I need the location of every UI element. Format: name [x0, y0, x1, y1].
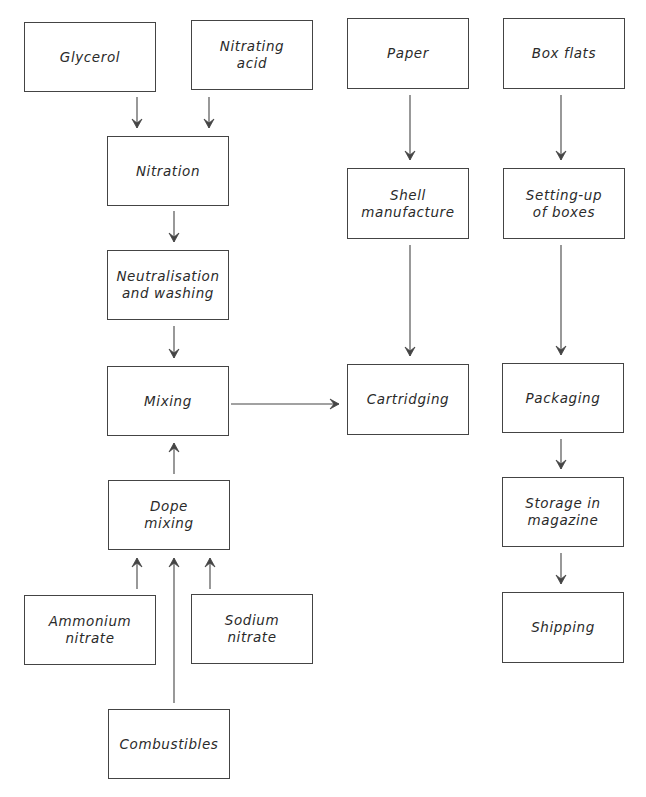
edge-ammonium_nitrate-to-dope_mixing: [132, 558, 142, 589]
node-sodium-nitrate: Sodium nitrate: [191, 594, 313, 664]
node-label: Cartridging: [367, 391, 449, 408]
edge-setting_up_boxes-to-packaging: [556, 245, 566, 355]
edge-dope_mixing-to-mixing: [169, 443, 179, 474]
node-box-flats: Box flats: [503, 18, 625, 89]
edge-paper-to-shell_manufacture: [405, 95, 415, 160]
edge-glycerol-to-nitration: [132, 97, 142, 128]
node-label: Packaging: [526, 390, 601, 407]
node-label: Glycerol: [60, 49, 120, 66]
edge-packaging-to-storage_magazine: [556, 439, 566, 469]
node-neutralisation: Neutralisation and washing: [107, 250, 229, 320]
edge-combustibles-to-dope_mixing: [169, 558, 179, 703]
node-combustibles: Combustibles: [108, 709, 230, 779]
edge-neutralisation-to-mixing: [169, 326, 179, 358]
node-label: Mixing: [144, 393, 192, 410]
node-label: Nitrating acid: [220, 38, 285, 72]
node-nitration: Nitration: [107, 136, 229, 206]
node-label: Sodium nitrate: [225, 612, 279, 646]
node-label: Box flats: [532, 45, 596, 62]
node-label: Paper: [387, 45, 429, 62]
node-storage-magazine: Storage in magazine: [502, 477, 624, 547]
node-ammonium-nitrate: Ammonium nitrate: [24, 595, 156, 665]
node-label: Ammonium nitrate: [49, 613, 132, 647]
node-label: Combustibles: [120, 736, 219, 753]
node-label: Nitration: [136, 163, 200, 180]
edge-mixing-to-cartridging: [231, 399, 339, 409]
node-label: Dope mixing: [144, 498, 193, 532]
edge-sodium_nitrate-to-dope_mixing: [205, 558, 215, 589]
node-mixing: Mixing: [107, 366, 229, 436]
node-shipping: Shipping: [502, 592, 624, 663]
node-shell-manufacture: Shell manufacture: [347, 168, 469, 239]
flow-diagram: GlycerolNitrating acidNitrationNeutralis…: [0, 0, 646, 797]
node-label: Shipping: [531, 619, 595, 636]
node-packaging: Packaging: [502, 363, 624, 433]
edge-storage_magazine-to-shipping: [556, 553, 566, 584]
node-label: Storage in magazine: [525, 495, 600, 529]
edge-shell_manufacture-to-cartridging: [405, 245, 415, 356]
edge-nitration-to-neutralisation: [169, 211, 179, 242]
node-paper: Paper: [347, 18, 469, 89]
node-label: Neutralisation and washing: [116, 268, 219, 302]
edge-box_flats-to-setting_up_boxes: [556, 95, 566, 160]
node-label: Shell manufacture: [361, 187, 454, 221]
node-nitrating-acid: Nitrating acid: [191, 20, 313, 90]
node-label: Setting-up of boxes: [526, 187, 602, 221]
node-dope-mixing: Dope mixing: [108, 480, 230, 550]
node-setting-up-boxes: Setting-up of boxes: [503, 168, 625, 239]
edge-nitrating_acid-to-nitration: [204, 97, 214, 128]
node-glycerol: Glycerol: [24, 22, 156, 92]
node-cartridging: Cartridging: [347, 364, 469, 435]
